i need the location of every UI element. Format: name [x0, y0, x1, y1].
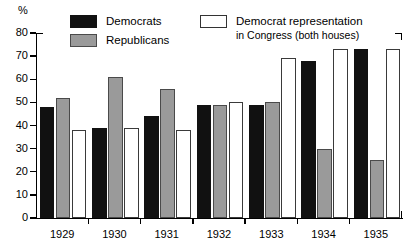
y-axis-tick-label: 80 — [4, 27, 28, 38]
bar-democrats-1933 — [249, 105, 264, 218]
bar-democrats-1931 — [144, 116, 159, 218]
x-axis-tick-label-1932: 1932 — [196, 228, 242, 240]
y-axis-label-wrap: 20 — [0, 166, 28, 177]
y-axis-label-wrap: 60 — [0, 73, 28, 84]
x-axis-tick — [244, 218, 245, 224]
legend-swatch-congress — [200, 15, 227, 28]
bar-republicans-1935 — [370, 160, 385, 218]
x-axis-tick-label-1935: 1935 — [353, 228, 399, 240]
y-axis-tick-label: 50 — [4, 96, 28, 107]
y-axis-label-wrap: 30 — [0, 143, 28, 154]
bar-democrat-1929 — [72, 130, 87, 218]
x-axis-tick-label-1933: 1933 — [248, 228, 294, 240]
bar-republicans-1931 — [160, 89, 175, 219]
bar-republicans-1930 — [108, 77, 123, 218]
legend-label-republicans: Republicans — [106, 34, 169, 47]
y-axis-label-wrap: 80 — [0, 27, 28, 38]
y-axis-label-wrap: 50 — [0, 96, 28, 107]
x-axis-tick — [192, 218, 193, 224]
bar-democrat-1933 — [281, 58, 296, 218]
bar-democrats-1935 — [354, 49, 369, 218]
x-axis-tick — [349, 218, 350, 224]
x-axis-tick-label-1929: 1929 — [39, 228, 85, 240]
x-axis-tick-label-1930: 1930 — [91, 228, 137, 240]
legend-label-congress: Democrat representation in Congress (bot… — [236, 15, 363, 42]
frame-stub-right-top — [401, 33, 402, 40]
x-axis-tick — [297, 218, 298, 224]
y-axis-label-wrap: 10 — [0, 189, 28, 200]
x-axis-tick-label-1931: 1931 — [144, 228, 190, 240]
bar-democrats-1930 — [92, 128, 107, 218]
bar-republicans-1932 — [213, 105, 228, 218]
legend: Democrats Republicans — [70, 15, 169, 53]
legend-label-congress-line1: Democrat representation — [236, 15, 363, 27]
legend-swatch-republicans — [70, 34, 97, 47]
bar-democrats-1932 — [197, 105, 212, 218]
legend-swatch-democrats — [70, 15, 97, 28]
bar-democrat-1934 — [333, 49, 348, 218]
bar-republicans-1933 — [265, 102, 280, 218]
legend-label-democrats: Democrats — [106, 15, 162, 28]
x-axis-tick — [88, 218, 89, 224]
bar-democrat-1931 — [176, 130, 191, 218]
bar-democrats-1934 — [301, 61, 316, 218]
bar-democrat-1935 — [386, 49, 401, 218]
frame-stub-top-left — [36, 33, 43, 34]
bar-democrats-1929 — [40, 107, 55, 218]
y-axis-unit-label: % — [18, 5, 28, 16]
y-axis-tick-label: 70 — [4, 50, 28, 61]
y-axis-label-wrap: 40 — [0, 120, 28, 131]
legend-item-democrats: Democrats — [70, 15, 169, 30]
bar-republicans-1929 — [56, 98, 71, 218]
y-axis-tick-label: 40 — [4, 120, 28, 131]
y-axis-label-wrap: 0 — [0, 212, 28, 223]
y-axis-label-wrap: 70 — [0, 50, 28, 61]
y-axis-tick-label: 0 — [4, 212, 28, 223]
legend-label-congress-line2: in Congress (both houses) — [236, 29, 359, 41]
bar-democrat-1930 — [124, 128, 139, 218]
y-axis-tick-label: 60 — [4, 73, 28, 84]
bar-chart: % 80706050403020100 19291930193119321933… — [0, 0, 408, 251]
legend-item-republicans: Republicans — [70, 34, 169, 49]
bar-democrat-1932 — [229, 102, 244, 218]
y-axis-tick-label: 20 — [4, 166, 28, 177]
bar-republicans-1934 — [317, 149, 332, 218]
frame-stub-right-bottom — [401, 211, 402, 218]
legend-item-congress: Democrat representation in Congress (bot… — [200, 15, 363, 42]
y-axis-tick-label: 30 — [4, 143, 28, 154]
x-axis-tick-label-1934: 1934 — [301, 228, 347, 240]
y-axis-tick-label: 10 — [4, 189, 28, 200]
x-axis-tick — [140, 218, 141, 224]
